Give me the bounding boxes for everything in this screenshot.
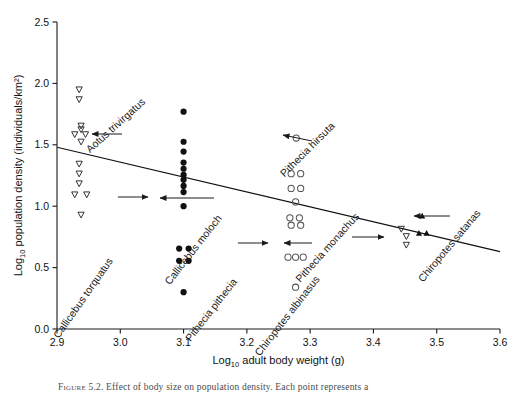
y-tick-label: 1.5: [34, 138, 49, 150]
data-point: [403, 234, 409, 240]
data-point: [78, 139, 84, 145]
y-tick-label: 2.5: [34, 16, 49, 28]
caption-body: Effect of body size on population densit…: [106, 382, 368, 392]
data-point: [298, 222, 304, 228]
data-point: [180, 160, 186, 166]
figure-container: 0.00.51.01.52.02.52.93.03.13.23.33.43.53…: [0, 0, 518, 394]
data-point: [298, 185, 304, 191]
y-tick-label: 1.0: [34, 200, 49, 212]
y-tick-label: 0.5: [34, 261, 49, 273]
data-point: [180, 148, 186, 154]
data-point: [180, 109, 186, 115]
caption-prefix: Figure 5.2.: [58, 382, 104, 392]
species-label-callicebus-torquatus: Callicebus torquatus: [51, 255, 115, 340]
data-point: [180, 203, 186, 209]
data-point: [298, 171, 304, 177]
data-point: [423, 230, 429, 236]
species-label-pithecia-monachus: Pithecia monachus: [293, 210, 361, 284]
data-point: [76, 87, 82, 93]
data-point: [76, 171, 82, 177]
trend-line: [57, 147, 500, 251]
data-point: [292, 254, 298, 260]
y-axis-title: Log10 population density (individuals/km…: [12, 75, 27, 277]
species-label-pithecia-pithecia: Pithecia pithecia: [183, 276, 240, 344]
data-point: [292, 284, 298, 290]
data-point: [82, 132, 88, 138]
species-label-callicebus-moloch: Callicebus moloch: [162, 212, 224, 287]
data-point: [84, 192, 90, 198]
axes: 0.00.51.01.52.02.52.93.03.13.23.33.43.53…: [34, 16, 507, 348]
x-tick-label: 3.5: [429, 336, 444, 348]
data-point: [292, 199, 298, 205]
species-label-aotus-trivirgatus: Aotus trivirgatus: [83, 95, 147, 154]
data-point: [300, 254, 306, 260]
data-point: [180, 166, 186, 172]
data-point: [176, 245, 182, 251]
data-point: [78, 212, 84, 218]
data-point: [76, 97, 82, 103]
data-point: [76, 181, 82, 187]
data-point: [180, 289, 186, 295]
data-point: [403, 242, 409, 248]
x-tick-label: 3.2: [240, 336, 255, 348]
data-point: [287, 215, 293, 221]
y-tick-label: 2.0: [34, 77, 49, 89]
scatter-plot: 0.00.51.01.52.02.52.93.03.13.23.33.43.53…: [0, 0, 518, 394]
y-tick-label: 0.0: [34, 323, 49, 335]
data-point: [180, 183, 186, 189]
data-point: [76, 161, 82, 167]
x-tick-label: 3.4: [366, 336, 381, 348]
data-point: [180, 139, 186, 145]
data-point: [296, 215, 302, 221]
data-point: [285, 254, 291, 260]
caption-line: Figure 5.2. Effect of body size on popul…: [58, 382, 368, 392]
data-point: [72, 192, 78, 198]
data-point: [180, 177, 186, 183]
data-point: [180, 189, 186, 195]
data-point: [72, 132, 78, 138]
x-axis-title: Log10 adult body weight (g): [213, 354, 345, 369]
species-annotations: Aotus trivirgatusCallicebus torquatusCal…: [51, 95, 483, 357]
x-tick-label: 3.6: [493, 336, 508, 348]
data-point: [288, 185, 294, 191]
species-label-pithecia-hirsuta: Pithecia hirsuta: [278, 119, 337, 178]
data-point: [288, 222, 294, 228]
regression-line: [57, 147, 500, 251]
figure-caption: Figure 5.2. Effect of body size on popul…: [58, 376, 478, 394]
x-tick-label: 3.3: [303, 336, 318, 348]
x-tick-label: 3.0: [113, 336, 128, 348]
